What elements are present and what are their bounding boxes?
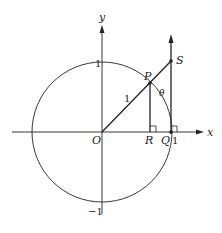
y-axis-arrow-icon <box>100 25 105 33</box>
point-S <box>169 59 173 63</box>
right-angle-R-icon <box>150 126 156 132</box>
point-Q-label: Q <box>161 134 170 147</box>
point-S-label: S <box>176 54 184 67</box>
theta-label: θ <box>159 88 165 98</box>
x-tick-one: 1 <box>172 135 178 146</box>
y-axis-label: y <box>98 11 106 24</box>
y-tick-neg-one: −1 <box>88 206 103 217</box>
origin-label: O <box>92 134 101 147</box>
radius-label: 1 <box>124 93 130 104</box>
point-P-label: P <box>143 70 152 83</box>
y-tick-one: 1 <box>95 58 101 69</box>
x-axis-arrow-icon <box>196 130 204 135</box>
tangent-arrow-icon <box>169 34 174 43</box>
unit-circle-diagram: y x O P R Q S θ 1 1 −1 1 <box>0 0 222 233</box>
x-axis-label: x <box>207 126 214 139</box>
point-R-label: R <box>144 134 153 147</box>
